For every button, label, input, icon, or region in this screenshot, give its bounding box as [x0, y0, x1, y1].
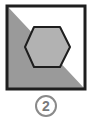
option-figure: 2 [0, 0, 92, 124]
option-label-number: 2 [42, 98, 50, 114]
hexagon-shape [25, 27, 70, 67]
